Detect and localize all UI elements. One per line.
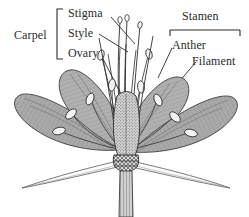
receptacle: [113, 155, 138, 172]
label-stamen: Stamen: [182, 10, 219, 22]
stigma-1: [118, 17, 122, 24]
label-style: Style: [68, 27, 93, 39]
flower-anatomy-figure: Carpel Stigma Style Ovary Stamen Anther …: [0, 0, 249, 217]
stigmas: [118, 15, 143, 29]
sepal-right: [127, 160, 230, 188]
leader-style: [99, 34, 128, 52]
sepal-left: [22, 160, 122, 188]
stigma-3: [137, 21, 143, 29]
stamen-bracket: [170, 30, 240, 36]
stem: [119, 171, 133, 217]
leader-anther: [158, 48, 172, 78]
label-filament: Filament: [192, 55, 235, 67]
ovary: [113, 92, 139, 161]
leader-stigma: [111, 17, 135, 44]
label-carpel: Carpel: [14, 29, 47, 41]
label-ovary: Ovary: [68, 47, 99, 59]
anther-4: [108, 78, 116, 91]
carpel-bracket: [57, 9, 63, 59]
label-anther: Anther: [172, 39, 206, 51]
stigma-2: [125, 15, 129, 22]
label-stigma: Stigma: [68, 7, 103, 19]
